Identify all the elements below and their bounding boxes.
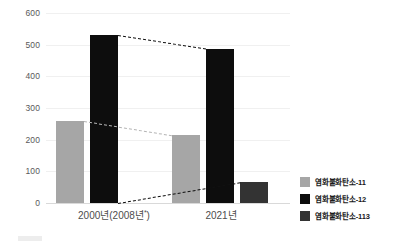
connector-cfc12-dashed-line <box>118 35 206 49</box>
bar-cfc12-2000 <box>90 35 118 203</box>
xtick-label-2000: 2000년(2008년*) <box>78 207 150 222</box>
legend-item-cfc113[interactable]: 염화불화탄소-113 <box>300 210 370 221</box>
bar-cfc113-2021 <box>240 182 268 203</box>
chart-legend: 염화불화탄소-11 염화불화탄소-12 염화불화탄소-113 <box>300 176 370 221</box>
ytick-label-100: 100 <box>0 166 40 176</box>
ytick-label-500: 500 <box>0 40 40 50</box>
legend-label-cfc12: 염화불화탄소-12 <box>315 193 366 204</box>
axis-baseline <box>46 203 290 204</box>
xtick-label-2000-tail: ) <box>147 210 150 221</box>
gridline-500 <box>46 45 290 46</box>
legend-item-cfc11[interactable]: 염화불화탄소-11 <box>300 176 370 187</box>
bar-cfc12-2021 <box>206 49 234 203</box>
ytick-label-400: 400 <box>0 71 40 81</box>
legend-swatch-cfc12-icon <box>300 194 310 204</box>
bar-cfc11-2000 <box>56 121 84 203</box>
xtick-label-2000-main: 2000년(2008년 <box>78 210 144 221</box>
ytick-label-600: 600 <box>0 8 40 18</box>
gridline-400 <box>46 76 290 77</box>
legend-swatch-cfc113-icon <box>300 211 310 221</box>
gridline-300 <box>46 108 290 109</box>
ytick-label-200: 200 <box>0 135 40 145</box>
ytick-label-0: 0 <box>0 198 40 208</box>
legend-label-cfc113: 염화불화탄소-113 <box>315 210 370 221</box>
cfc-concentration-bar-chart: 600 500 400 300 200 100 0 2000년(2008년*) … <box>0 0 393 247</box>
plot-area <box>46 13 290 203</box>
legend-item-cfc12[interactable]: 염화불화탄소-12 <box>300 193 370 204</box>
xtick-label-2021: 2021년 <box>205 207 236 222</box>
bottom-left-artifact <box>18 236 42 241</box>
gridline-600 <box>46 13 290 14</box>
legend-swatch-cfc11-icon <box>300 177 310 187</box>
legend-label-cfc11: 염화불화탄소-11 <box>315 176 366 187</box>
ytick-label-300: 300 <box>0 103 40 113</box>
